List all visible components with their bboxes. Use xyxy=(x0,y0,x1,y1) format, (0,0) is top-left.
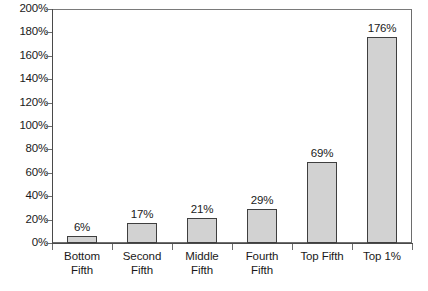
bar xyxy=(67,236,97,243)
bar-value-label: 176% xyxy=(368,22,397,34)
bar-value-label: 69% xyxy=(311,147,333,159)
bar-value-label: 29% xyxy=(251,194,273,206)
y-axis-tick-label: 160% xyxy=(2,50,48,62)
bar-group: 21% xyxy=(172,9,232,243)
category-label-line: Top 1% xyxy=(352,250,412,264)
bar-group: 17% xyxy=(112,9,172,243)
bar xyxy=(127,223,157,243)
bar-series: 6%17%21%29%69%176% xyxy=(52,9,412,243)
y-axis-tick-label: 40% xyxy=(2,190,48,202)
category-label-line: Fifth xyxy=(232,264,292,278)
y-axis: 200%180%160%140%120%100%80%60%40%20%0% xyxy=(0,0,48,291)
bar-value-label: 21% xyxy=(191,203,213,215)
bar-group: 69% xyxy=(292,9,352,243)
category-label-line: Fifth xyxy=(172,264,232,278)
x-axis-category-label: Top 1% xyxy=(352,250,412,264)
x-axis-category-label: BottomFifth xyxy=(52,250,112,277)
category-label-line: Middle xyxy=(172,250,232,264)
category-label-line: Bottom xyxy=(52,250,112,264)
y-axis-tick-label: 100% xyxy=(2,120,48,132)
bar-value-label: 6% xyxy=(74,221,90,233)
x-axis-category-label: Top Fifth xyxy=(292,250,352,264)
bar-group: 6% xyxy=(52,9,112,243)
y-axis-tick-label: 60% xyxy=(2,167,48,179)
category-label-line: Fourth xyxy=(232,250,292,264)
bar xyxy=(187,218,217,243)
category-label-line: Fifth xyxy=(52,264,112,278)
x-axis-category-label: FourthFifth xyxy=(232,250,292,277)
bar xyxy=(247,209,277,243)
y-axis-tick-label: 20% xyxy=(2,214,48,226)
y-axis-tick-label: 180% xyxy=(2,26,48,38)
x-axis-category-label: MiddleFifth xyxy=(172,250,232,277)
y-axis-tick-label: 80% xyxy=(2,143,48,155)
category-label-line: Fifth xyxy=(112,264,172,278)
x-axis-tick-mark xyxy=(412,244,413,250)
x-axis-category-labels: BottomFifthSecondFifthMiddleFifthFourthF… xyxy=(52,250,412,288)
y-axis-tick-label: 140% xyxy=(2,73,48,85)
bar-group: 176% xyxy=(352,9,412,243)
y-axis-tick-label: 200% xyxy=(2,3,48,15)
y-axis-tick-label: 0% xyxy=(2,237,48,249)
category-label-line: Top Fifth xyxy=(292,250,352,264)
bar-group: 29% xyxy=(232,9,292,243)
bar-chart: 200%180%160%140%120%100%80%60%40%20%0% 6… xyxy=(0,0,428,291)
x-axis-category-label: SecondFifth xyxy=(112,250,172,277)
bar xyxy=(367,37,397,243)
category-label-line: Second xyxy=(112,250,172,264)
bar xyxy=(307,162,337,243)
bar-value-label: 17% xyxy=(131,208,153,220)
y-axis-tick-label: 120% xyxy=(2,97,48,109)
